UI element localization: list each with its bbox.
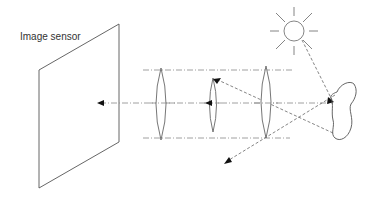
optics-diagram: Image sensor — [0, 0, 376, 200]
image-sensor — [39, 24, 119, 188]
object-shape — [331, 82, 356, 139]
arrow-lower-left-icon — [224, 157, 232, 164]
arrow-to-sensor-icon — [97, 100, 104, 106]
light-rays — [218, 40, 335, 160]
sun-icon — [270, 7, 318, 55]
ray-object-to-lower-left — [229, 95, 335, 160]
lens-3 — [261, 66, 271, 138]
arrow-center-left-icon — [205, 100, 212, 106]
lens-1 — [156, 68, 166, 140]
image-sensor-label: Image sensor — [20, 31, 81, 43]
ray-sun-to-object — [302, 40, 332, 100]
